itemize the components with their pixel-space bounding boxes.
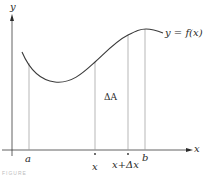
area-label: ΔA [104,93,117,102]
y-axis-arrow-icon [10,14,14,21]
tick-dot-x-plus-dx [127,153,129,155]
tick-label-x-plus-dx: x+Δx [112,160,139,170]
curve-label: y = f(x) [165,28,203,38]
x-axis-arrow-icon [186,148,193,152]
tick-label-b: b [142,153,148,163]
tick-dot-x [94,153,96,155]
figure-caption: FIGURE [2,170,27,176]
function-curve [22,29,163,82]
x-axis-label: x [194,144,200,154]
tick-label-a: a [25,154,31,164]
y-axis-label: y [10,2,16,12]
tick-label-x: x [92,162,98,172]
